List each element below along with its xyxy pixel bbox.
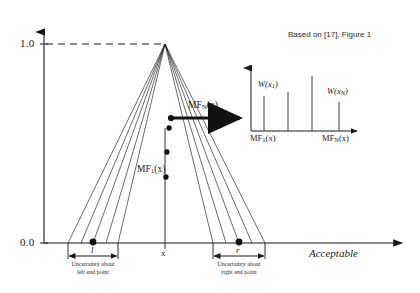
lower-mf-suffix: (x) <box>154 164 165 174</box>
x-axis-name: Acceptable <box>309 247 358 259</box>
y-axis-bottom-tick-label: 0.0 <box>20 236 34 248</box>
endpoint-dots <box>90 239 243 246</box>
inset-weight-label-n: W(xN) <box>327 86 348 96</box>
upper-mf-suffix: (x) <box>207 100 218 110</box>
right-uncertainty-line-1: Uncertainty about <box>204 261 274 269</box>
inset-x-left-text: MF <box>250 133 262 143</box>
membership-function-fan <box>68 44 265 243</box>
inset-axes <box>251 68 357 131</box>
lower-mf-curve-label: MF1(x) <box>137 164 165 175</box>
figure-container: 1.0 0.0 Based on [17], Figure 1 MFN(x) M… <box>0 0 420 293</box>
inset-weight-n-suffix: ) <box>345 86 348 96</box>
right-uncertainty-line-2: right end point <box>204 269 274 277</box>
inset-x-right-text: MF <box>322 133 334 143</box>
left-uncertainty-line-2: left end point <box>58 269 128 277</box>
grade-dot-2 <box>166 125 171 130</box>
inset-x-axis-left-label: MF1(x) <box>250 133 275 143</box>
x-axis-sample-label: x <box>161 248 166 258</box>
lower-mf-text: MF <box>137 164 151 174</box>
left-uncertainty-caption: Uncertainty about left end point <box>58 261 128 276</box>
inset-weight-label-1: W(x1) <box>258 79 278 89</box>
inset-x-right-suffix: (x) <box>339 133 349 143</box>
inset-x-axis-right-label: MFN(x) <box>322 133 349 143</box>
inset-weight-1-suffix: ) <box>275 79 278 89</box>
left-endpoint-label: l <box>91 245 94 255</box>
credit-note: Based on [17], Figure 1 <box>288 30 371 39</box>
inset-weight-n-text: W(x <box>327 86 341 96</box>
right-uncertainty-caption: Uncertainty about right end point <box>204 261 274 276</box>
grade-dot-4 <box>163 174 168 179</box>
left-uncertainty-line-1: Uncertainty about <box>58 261 128 269</box>
upper-mf-curve-label: MFN(x) <box>188 100 218 111</box>
grade-dot-3 <box>164 149 169 154</box>
inset-x-left-suffix: (x) <box>266 133 276 143</box>
y-axis-top-tick-label: 1.0 <box>20 37 34 49</box>
inset-weight-1-text: W(x <box>258 79 272 89</box>
upper-mf-text: MF <box>188 100 202 110</box>
right-endpoint-label: r <box>236 245 240 255</box>
